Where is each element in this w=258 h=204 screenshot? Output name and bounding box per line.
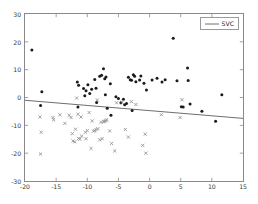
data-point-circle — [182, 105, 185, 108]
data-point-circle — [104, 75, 107, 78]
data-point-cross — [127, 135, 130, 138]
data-point-cross — [63, 122, 66, 125]
data-point-circle — [30, 48, 33, 51]
data-point-cross — [110, 142, 113, 145]
data-point-cross — [144, 133, 147, 136]
series-class-2 — [38, 96, 183, 155]
data-point-cross — [74, 128, 77, 131]
data-point-circle — [82, 87, 85, 90]
y-tick--10: -10 — [0, 122, 21, 129]
data-point-circle — [93, 78, 96, 81]
data-point-circle — [186, 66, 189, 69]
x-tick-10: 10 — [200, 183, 224, 190]
data-point-cross — [75, 96, 78, 99]
data-point-cross — [91, 119, 94, 122]
legend-line-swatch — [205, 21, 219, 27]
scatter-chart-figure: -30-20-100102030 -20-15-10-5051015 SVC — [0, 0, 258, 204]
data-point-cross — [144, 152, 147, 155]
data-point-circle — [151, 78, 154, 81]
data-point-circle — [76, 105, 79, 108]
x-tick-5: 5 — [169, 183, 193, 190]
data-point-circle — [86, 83, 89, 86]
y-tick-30: 30 — [0, 11, 21, 18]
data-point-cross — [180, 98, 183, 101]
data-point-cross — [80, 135, 83, 138]
data-point-circle — [83, 94, 86, 97]
data-point-cross — [86, 129, 89, 132]
data-point-circle — [200, 110, 203, 113]
y-tick-20: 20 — [0, 39, 21, 46]
data-point-circle — [109, 114, 112, 117]
x-tick-0: 0 — [138, 183, 162, 190]
data-point-circle — [100, 74, 103, 77]
data-point-cross — [130, 100, 133, 103]
data-point-cross — [76, 113, 79, 116]
data-point-cross — [89, 147, 92, 150]
data-point-cross — [78, 138, 81, 141]
data-point-circle — [156, 77, 159, 80]
data-point-circle — [134, 80, 137, 83]
data-point-circle — [104, 93, 107, 96]
data-point-circle — [130, 79, 133, 82]
data-point-circle — [161, 80, 164, 83]
data-point-cross — [113, 149, 116, 152]
data-point-cross — [79, 115, 82, 118]
data-point-circle — [220, 93, 223, 96]
data-point-circle — [138, 78, 141, 81]
data-point-circle — [145, 88, 148, 91]
data-point-circle — [76, 80, 79, 83]
data-point-circle — [214, 120, 217, 123]
data-point-cross — [40, 131, 43, 134]
data-point-circle — [77, 84, 80, 87]
data-point-cross — [38, 115, 41, 118]
data-point-cross — [84, 137, 87, 140]
data-point-circle — [85, 89, 88, 92]
data-point-circle — [127, 76, 130, 79]
x-tick--20: -20 — [13, 183, 37, 190]
x-tick--10: -10 — [75, 183, 99, 190]
chart-legend: SVC — [200, 17, 239, 30]
legend-label-svc: SVC — [222, 20, 234, 27]
plot-area — [24, 13, 244, 182]
data-point-circle — [39, 104, 42, 107]
data-point-circle — [172, 37, 175, 40]
data-point-cross — [88, 111, 91, 114]
data-point-circle — [125, 102, 128, 105]
data-point-circle — [90, 88, 93, 91]
data-point-circle — [88, 92, 91, 95]
y-tick--20: -20 — [0, 150, 21, 157]
data-point-cross — [39, 152, 42, 155]
data-point-circle — [142, 82, 145, 85]
data-point-cross — [179, 116, 182, 119]
data-point-circle — [102, 67, 105, 70]
data-point-circle — [133, 75, 136, 78]
data-point-circle — [164, 78, 167, 81]
y-tick-0: 0 — [0, 94, 21, 101]
data-point-cross — [160, 113, 163, 116]
data-point-circle — [117, 97, 120, 100]
data-point-cross — [115, 101, 118, 104]
data-point-cross — [70, 116, 73, 119]
x-tick-15: 15 — [231, 183, 255, 190]
data-point-cross — [108, 129, 111, 132]
data-point-cross — [134, 103, 137, 106]
data-point-cross — [96, 98, 99, 101]
x-tick--15: -15 — [44, 183, 68, 190]
data-point-circle — [187, 79, 190, 82]
y-tick-10: 10 — [0, 66, 21, 73]
data-point-cross — [58, 113, 61, 116]
data-point-cross — [124, 128, 127, 131]
data-point-circle — [139, 75, 142, 78]
x-tick--5: -5 — [106, 183, 130, 190]
data-point-circle — [114, 95, 117, 98]
data-point-circle — [175, 79, 178, 82]
data-point-circle — [131, 109, 134, 112]
data-point-cross — [141, 144, 144, 147]
data-point-circle — [40, 90, 43, 93]
data-point-circle — [106, 107, 109, 110]
data-point-circle — [122, 98, 125, 101]
plot-canvas — [25, 14, 243, 181]
data-point-cross — [71, 132, 74, 135]
data-point-circle — [189, 102, 192, 105]
data-point-circle — [109, 82, 112, 85]
